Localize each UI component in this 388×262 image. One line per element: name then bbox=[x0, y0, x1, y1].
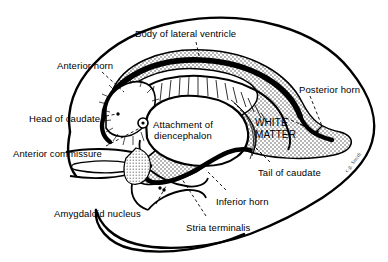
label-stria-terminalis: Stria terminalis bbox=[186, 222, 250, 233]
brain-ventricle-diagram: Body of lateral ventricle Anterior horn … bbox=[0, 0, 388, 262]
label-body-of-lateral-ventricle: Body of lateral ventricle bbox=[135, 28, 236, 39]
label-white-matter: WHITE MATTER bbox=[255, 117, 296, 140]
leader-inferior-horn bbox=[206, 170, 226, 190]
label-inferior-horn: Inferior horn bbox=[216, 196, 269, 207]
white-matter-line-1: WHITE bbox=[255, 117, 296, 129]
amygdaloid-nucleus-body bbox=[148, 190, 206, 210]
leader-stria-terminalis bbox=[180, 176, 206, 216]
label-anterior-horn: Anterior horn bbox=[57, 60, 113, 71]
attachment-line-1: Attachment of bbox=[153, 119, 213, 130]
label-anterior-commissure: Anterior commissure bbox=[13, 148, 102, 159]
label-amygdaloid-nucleus: Amygdaloid nucleus bbox=[54, 208, 141, 219]
label-attachment-of-diencephalon: Attachment of diencephalon bbox=[153, 119, 213, 141]
white-matter-line-2: MATTER bbox=[255, 129, 296, 141]
interventricular-foramen bbox=[138, 118, 148, 128]
attachment-line-2: diencephalon bbox=[153, 130, 213, 141]
label-head-of-caudate: Head of caudate bbox=[29, 113, 100, 124]
label-posterior-horn: Posterior horn bbox=[299, 84, 360, 95]
label-tail-of-caudate: Tail of caudate bbox=[258, 167, 321, 178]
